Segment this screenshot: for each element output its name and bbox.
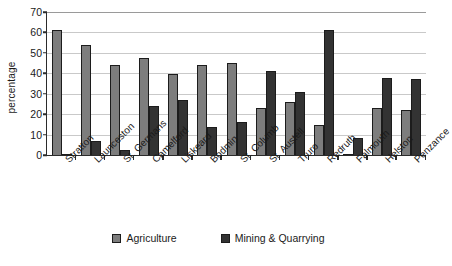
y-tick-label-50: 50 — [30, 47, 42, 59]
bar — [343, 154, 353, 155]
y-tick-label-30: 30 — [30, 88, 42, 100]
legend-item-mining-quarrying: Mining & Quarrying — [221, 232, 325, 244]
bar-group — [222, 12, 251, 155]
y-axis-title: percentage — [6, 38, 17, 138]
y-tick-label-10: 10 — [30, 129, 42, 141]
y-tick-label-20: 20 — [30, 108, 42, 120]
bar — [382, 78, 392, 155]
legend-label-agriculture: Agriculture — [126, 232, 176, 244]
bar — [52, 30, 62, 155]
y-tick-label-40: 40 — [30, 67, 42, 79]
legend-swatch-agriculture — [112, 234, 121, 243]
legend-swatch-mining-quarrying — [221, 234, 230, 243]
bar-group — [309, 12, 338, 155]
x-axis-labels: StrattonLauncestonSt. GermansCamelfordLi… — [46, 157, 425, 219]
plot-area: 010203040506070 — [46, 12, 426, 156]
legend-item-agriculture: Agriculture — [112, 232, 176, 244]
bar-group — [47, 12, 76, 155]
legend-label-mining-quarrying: Mining & Quarrying — [235, 232, 325, 244]
y-tick-label-70: 70 — [30, 6, 42, 18]
bar-group — [339, 12, 368, 155]
y-tick-label-0: 0 — [36, 149, 42, 161]
bar-group — [397, 12, 426, 155]
chart-legend: Agriculture Mining & Quarrying — [0, 232, 437, 244]
bar-group — [76, 12, 105, 155]
bar — [324, 30, 334, 155]
bar-groups — [47, 12, 426, 155]
y-tick-label-60: 60 — [30, 26, 42, 38]
bar — [295, 92, 305, 155]
bar — [411, 79, 421, 155]
